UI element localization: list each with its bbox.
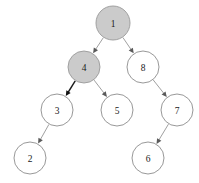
tree-edge — [95, 38, 104, 51]
nodes-layer: 14835726 — [14, 6, 193, 174]
edge-arrowhead-icon — [157, 138, 162, 144]
node-label: 8 — [141, 63, 146, 73]
tree-node-7[interactable]: 7 — [161, 94, 193, 126]
tree-node-4[interactable]: 4 — [68, 51, 100, 83]
tree-node-8[interactable]: 8 — [127, 51, 159, 83]
node-label: 3 — [55, 106, 60, 116]
binary-tree-figure: 14835726 — [0, 0, 199, 183]
tree-edge — [123, 37, 132, 51]
edge-arrowhead-icon — [162, 91, 167, 97]
node-label: 6 — [146, 154, 151, 164]
tree-edge — [158, 124, 168, 141]
tree-canvas: 14835726 — [0, 0, 199, 183]
tree-node-1[interactable]: 1 — [96, 6, 130, 40]
node-label: 1 — [111, 19, 116, 29]
tree-node-5[interactable]: 5 — [101, 94, 133, 126]
node-label: 2 — [28, 154, 33, 164]
tree-node-3[interactable]: 3 — [41, 94, 73, 126]
tree-node-6[interactable]: 6 — [132, 142, 164, 174]
edge-arrowhead-icon — [129, 48, 134, 54]
node-label: 5 — [115, 106, 120, 116]
tree-edge — [39, 124, 48, 141]
edge-arrowhead-icon — [102, 91, 107, 97]
tree-edge — [153, 80, 165, 95]
node-label: 7 — [175, 106, 180, 116]
node-label: 4 — [82, 63, 87, 73]
tree-node-2[interactable]: 2 — [14, 142, 46, 174]
edge-arrowhead-icon — [93, 48, 98, 54]
tree-edge — [94, 80, 105, 95]
